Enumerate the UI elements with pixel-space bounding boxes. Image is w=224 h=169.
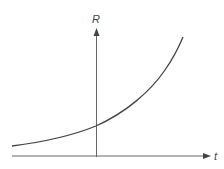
y-axis-arrow-icon [94,28,100,36]
x-axis-arrow-icon [203,153,211,159]
x-axis-label: t [214,150,218,162]
y-axis-label: R [92,13,100,25]
growth-curve [12,37,183,146]
exponential-growth-diagram: R t [0,0,224,169]
